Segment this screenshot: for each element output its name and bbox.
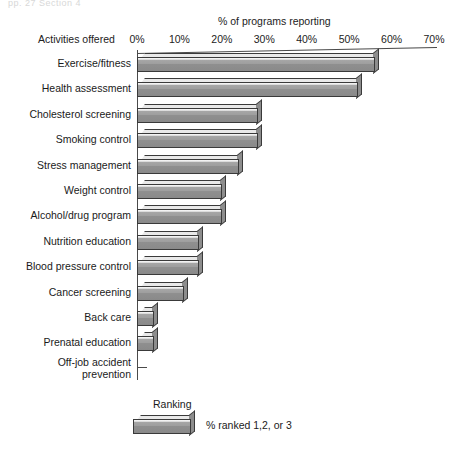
bar-row [137, 355, 437, 380]
plot-area [137, 50, 437, 384]
x-axis-ticks: 0%10%20%30%40%50%60%70% [0, 33, 455, 47]
bar-front-face [137, 184, 222, 199]
bar-row [137, 228, 437, 253]
bar [137, 332, 154, 351]
category-labels: Exercise/fitnessHealth assessmentCholest… [0, 50, 131, 390]
x-tick-10: 10% [169, 33, 190, 45]
x-axis-title: % of programs reporting [218, 15, 331, 27]
bar-row [137, 152, 437, 177]
bar-row [137, 101, 437, 126]
category-label: Cholesterol screening [3, 108, 131, 120]
category-label: Prenatal education [3, 336, 131, 348]
category-label: Alcohol/drug program [3, 209, 131, 221]
x-tick-40: 40% [296, 33, 317, 45]
bar-row [137, 253, 437, 278]
x-tick-70: 70% [423, 33, 444, 45]
bar [137, 104, 258, 123]
bar [137, 256, 199, 275]
bar-row [137, 304, 437, 329]
bar-row [137, 50, 437, 75]
category-label: Health assessment [3, 82, 131, 94]
category-label: Back care [3, 311, 131, 323]
bar-front-face [137, 235, 199, 250]
category-label: Cancer screening [3, 286, 131, 298]
legend-entry-label: % ranked 1,2, or 3 [206, 419, 292, 431]
chart-legend: Ranking % ranked 1,2, or 3 [0, 398, 455, 458]
bar [137, 180, 222, 199]
bar-row [137, 329, 437, 354]
bar-front-face [137, 159, 239, 174]
bar-front-face [137, 57, 375, 72]
bar-front-face [137, 209, 222, 224]
bar-row [137, 202, 437, 227]
bar-front-face [137, 336, 154, 351]
bar [137, 307, 154, 326]
bar-front-face [137, 286, 184, 301]
legend-title: Ranking [153, 398, 192, 410]
bar [137, 78, 358, 97]
bar-front-face [137, 133, 258, 148]
bar-front-face [137, 108, 258, 123]
bar [137, 53, 375, 72]
bar [137, 282, 184, 301]
bar-row [137, 279, 437, 304]
category-label: Blood pressure control [3, 260, 131, 272]
cut-off-running-header: pp. 27 Section 4 [8, 0, 81, 8]
category-label: Exercise/fitness [3, 57, 131, 69]
chart-page: pp. 27 Section 4 % of programs reporting… [0, 0, 455, 464]
bar-row [137, 75, 437, 100]
x-tick-60: 60% [381, 33, 402, 45]
bar [137, 231, 199, 250]
bar [137, 155, 239, 174]
category-label: Stress management [3, 159, 131, 171]
category-label: Nutrition education [3, 235, 131, 247]
bar-row [137, 126, 437, 151]
x-tick-20: 20% [211, 33, 232, 45]
bar-front-face [137, 82, 358, 97]
legend-swatch [133, 415, 195, 434]
bar-front-face [137, 260, 199, 275]
legend-swatch-face [133, 419, 191, 434]
x-tick-50: 50% [339, 33, 360, 45]
bar [137, 129, 258, 148]
bar-row [137, 177, 437, 202]
bar [137, 205, 222, 224]
category-label: Off-job accident prevention [3, 356, 131, 380]
x-tick-0: 0% [129, 33, 144, 45]
zero-value-tick [137, 367, 147, 368]
bar-front-face [137, 311, 154, 326]
x-tick-30: 30% [254, 33, 275, 45]
category-label: Smoking control [3, 133, 131, 145]
category-label: Weight control [3, 184, 131, 196]
